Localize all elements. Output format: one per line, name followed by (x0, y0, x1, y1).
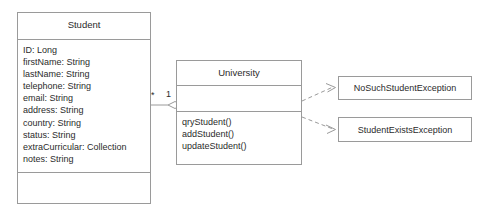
class-name-student-exists-exception: StudentExistsException (358, 125, 453, 135)
attribute-row: address: String (23, 104, 150, 116)
attributes-compartment-student: ID: Long firstName: String lastName: Str… (18, 40, 150, 173)
dependency-line (302, 117, 333, 129)
uml-class-diagram-canvas: Student ID: Long firstName: String lastN… (0, 0, 482, 221)
operations-compartment-university: qryStudent() addStudent() updateStudent(… (177, 112, 301, 165)
operation-row: addStudent() (182, 128, 301, 140)
attribute-row: country: String (23, 117, 150, 129)
class-box-no-such-student-exception[interactable]: NoSuchStudentException (338, 76, 472, 100)
attribute-row: lastName: String (23, 68, 150, 80)
dependency-arrow-no-such-student-exception (302, 84, 336, 102)
dependency-arrow-student-exists-exception (302, 117, 336, 134)
multiplicity-label-source: * (151, 91, 155, 100)
open-arrowhead-icon (326, 125, 336, 134)
attribute-row: email: String (23, 92, 150, 104)
class-box-student-exists-exception[interactable]: StudentExistsException (338, 117, 472, 142)
operations-compartment-student (18, 173, 150, 204)
class-name-student: Student (18, 13, 150, 40)
class-name-university: University (177, 61, 301, 86)
attribute-row: firstName: String (23, 56, 150, 68)
attribute-row: extraCurricular: Collection (23, 141, 150, 153)
class-box-student[interactable]: Student ID: Long firstName: String lastN… (17, 12, 151, 204)
dependency-line (302, 87, 333, 101)
attribute-row: ID: Long (23, 44, 150, 56)
multiplicity-label-target: 1 (166, 90, 171, 99)
operation-row: updateStudent() (182, 140, 301, 152)
operation-row: qryStudent() (182, 116, 301, 128)
attributes-compartment-university (177, 86, 301, 112)
class-name-no-such-student-exception: NoSuchStudentException (354, 83, 457, 93)
class-box-university[interactable]: University qryStudent() addStudent() upd… (176, 60, 302, 165)
attribute-row: status: String (23, 129, 150, 141)
attribute-row: notes: String (23, 153, 150, 165)
attribute-row: telephone: String (23, 80, 150, 92)
